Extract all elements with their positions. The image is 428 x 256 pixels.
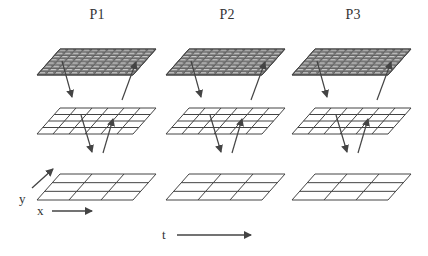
grid-fine-p3 [292,49,411,75]
grid-medium-p2 [166,108,285,134]
panel-title-p1: P1 [90,7,105,22]
grid-coarse-p2 [166,174,285,200]
grid-levels [37,49,411,200]
grid-coarse-p3 [292,174,411,200]
time-axis-label: t [162,227,166,242]
panel-title-p3: P3 [346,7,361,22]
panel-title-p2: P2 [220,7,235,22]
multigrid-diagram: P1 P2 P3 y x t [0,0,428,256]
x-axis-label: x [37,203,44,218]
grid-fine-p1 [37,49,156,75]
grid-coarse-p1 [37,174,156,200]
grid-medium-p3 [292,108,411,134]
y-axis-label: y [19,191,26,206]
grid-fine-p2 [166,49,285,75]
grid-medium-p1 [37,108,156,134]
